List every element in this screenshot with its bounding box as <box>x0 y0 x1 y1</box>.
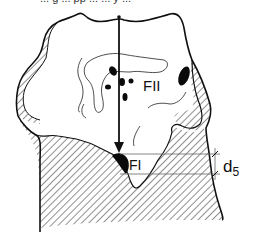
inner-contour-right <box>148 92 186 108</box>
label-dimension-d5: d5 <box>223 158 239 178</box>
dimension-subscript: 5 <box>232 165 239 179</box>
arrow-head-icon <box>114 142 124 153</box>
left-hatched-strip <box>17 22 59 124</box>
inclusion-spot <box>129 79 134 84</box>
label-fusion-zone-1: FI <box>129 158 141 172</box>
label-fusion-zone-2: FII <box>143 78 161 93</box>
cross-section-diagram <box>0 0 254 248</box>
arrow-origin-dot <box>117 15 121 19</box>
inner-contour-curve-2 <box>82 104 86 118</box>
inclusion-spot <box>105 85 111 90</box>
inclusion-spot-large <box>176 65 192 87</box>
inner-contour-left <box>78 58 83 112</box>
lower-hatched-section <box>18 116 223 228</box>
inner-contour-curve <box>133 126 140 146</box>
inclusion-spot <box>123 93 128 101</box>
inclusion-spot <box>107 65 118 77</box>
